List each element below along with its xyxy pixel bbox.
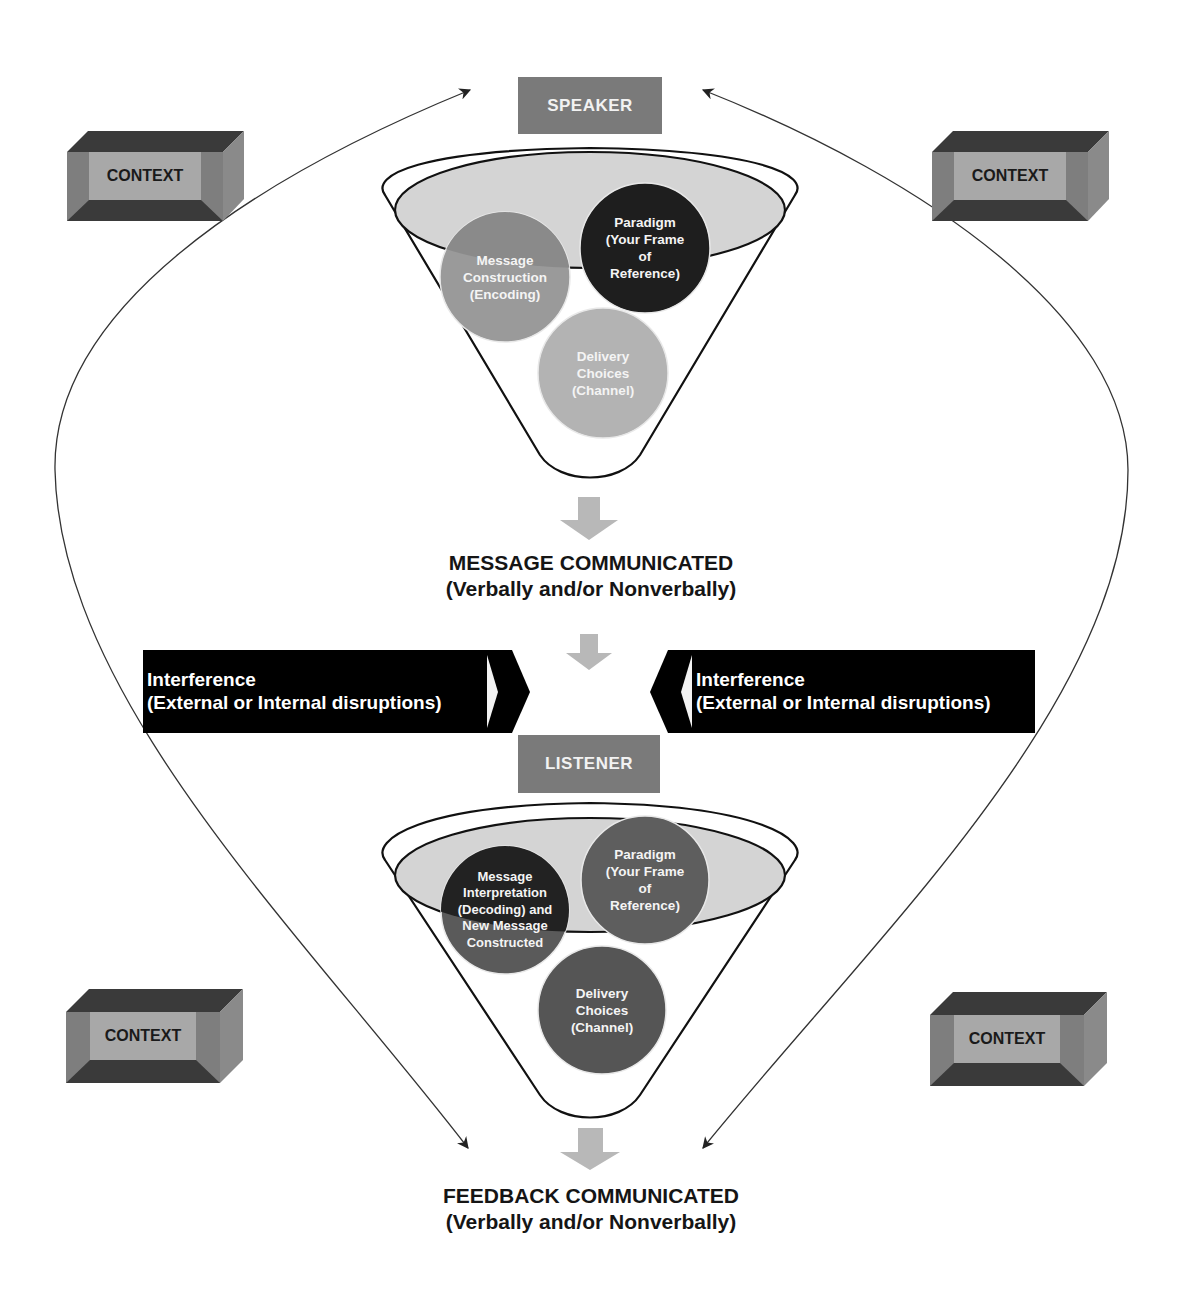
- speaker-label: SPEAKER: [547, 96, 633, 116]
- feedback-communicated-subtitle: (Verbally and/or Nonverbally): [0, 1209, 1182, 1235]
- circle-line: (Your Frame: [606, 863, 685, 880]
- circle-line: Choices: [571, 1002, 633, 1019]
- listener-circle-message-interpretation: Message Interpretation (Decoding) and Ne…: [441, 846, 569, 974]
- circle-line: Message: [458, 869, 553, 886]
- circle-line: Delivery: [572, 348, 634, 365]
- down-arrow-2: [566, 634, 612, 670]
- context-label: CONTEXT: [89, 152, 201, 200]
- context-label: CONTEXT: [90, 1012, 196, 1060]
- context-box-bottom-left: CONTEXT: [66, 989, 246, 1075]
- listener-circle-paradigm: Paradigm (Your Frame of Reference): [581, 816, 709, 944]
- circle-line: Paradigm: [606, 846, 685, 863]
- interference-subtitle: (External or Internal disruptions): [147, 691, 442, 714]
- listener-box: LISTENER: [518, 735, 660, 793]
- interference-right: Interference (External or Internal disru…: [696, 668, 991, 714]
- listener-circle-delivery-choices: Delivery Choices (Channel): [538, 946, 666, 1074]
- circle-line: Interpretation: [458, 885, 553, 902]
- circle-line: Choices: [572, 365, 634, 382]
- message-communicated-subtitle: (Verbally and/or Nonverbally): [0, 576, 1182, 602]
- speaker-circle-message-construction: Message Construction (Encoding): [440, 212, 570, 342]
- circle-line: (Your Frame: [606, 231, 685, 248]
- context-box-bottom-right: CONTEXT: [930, 992, 1110, 1078]
- context-label: CONTEXT: [954, 1015, 1060, 1063]
- context-box-top-left: CONTEXT: [67, 131, 247, 217]
- circle-line: Reference): [606, 897, 685, 914]
- circle-line: (Encoding): [463, 286, 547, 303]
- context-box-top-right: CONTEXT: [932, 131, 1112, 217]
- context-label: CONTEXT: [954, 152, 1066, 200]
- interference-title: Interference: [147, 668, 442, 691]
- circle-line: of: [606, 248, 685, 265]
- circle-line: Reference): [606, 265, 685, 282]
- interference-left: Interference (External or Internal disru…: [147, 668, 442, 714]
- circle-line: (Channel): [572, 382, 634, 399]
- circle-line: Paradigm: [606, 214, 685, 231]
- feedback-communicated-title: FEEDBACK COMMUNICATED: [0, 1183, 1182, 1209]
- down-arrow-1: [560, 497, 618, 540]
- circle-line: Constructed: [458, 935, 553, 952]
- message-communicated-title: MESSAGE COMMUNICATED: [0, 550, 1182, 576]
- listener-label: LISTENER: [545, 754, 633, 774]
- circle-line: Construction: [463, 269, 547, 286]
- right-feedback-curve: [703, 90, 1128, 1148]
- down-arrow-3: [560, 1128, 620, 1170]
- interference-title: Interference: [696, 668, 991, 691]
- speaker-circle-delivery-choices: Delivery Choices (Channel): [538, 308, 668, 438]
- speaker-box: SPEAKER: [518, 77, 662, 134]
- circle-line: New Message: [458, 918, 553, 935]
- circle-line: Message: [463, 252, 547, 269]
- circle-line: of: [606, 880, 685, 897]
- speaker-circle-paradigm: Paradigm (Your Frame of Reference): [580, 183, 710, 313]
- circle-line: (Decoding) and: [458, 902, 553, 919]
- circle-line: Delivery: [571, 985, 633, 1002]
- circle-line: (Channel): [571, 1019, 633, 1036]
- interference-subtitle: (External or Internal disruptions): [696, 691, 991, 714]
